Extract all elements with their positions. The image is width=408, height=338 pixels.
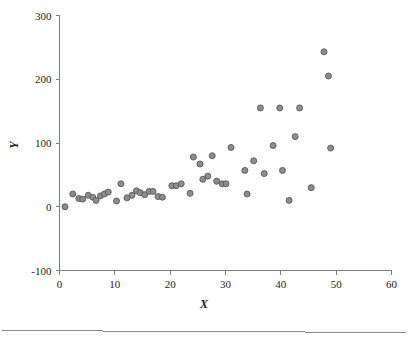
tick-marks [56,16,392,275]
data-point [286,197,292,203]
data-point [328,145,334,151]
data-point [223,181,229,187]
data-point [279,167,285,173]
data-point [321,49,327,55]
x-tick-label: 60 [386,278,398,290]
data-point [292,134,298,140]
data-point [113,198,119,204]
data-point [325,73,331,79]
data-point [205,173,211,179]
data-point [80,196,86,202]
data-point [105,189,111,195]
x-tick-labels: 0102030405060 [57,278,398,290]
footer-divider [2,331,406,333]
y-axis-title: Y [7,140,21,149]
x-tick-label: 30 [220,278,232,290]
data-point [242,167,248,173]
data-point [187,190,193,196]
y-tick-label: 100 [35,137,52,149]
data-point [118,181,124,187]
y-tick-label: 0 [46,201,52,213]
data-point [150,188,156,194]
data-point [159,194,165,200]
data-point [251,158,257,164]
data-point [277,105,283,111]
data-point [308,185,314,191]
data-point [214,178,220,184]
chart-canvas: -1000100200300 0102030405060 X Y [0,0,408,338]
x-axis-title: X [199,297,209,311]
data-point [62,204,68,210]
y-tick-label: -100 [31,265,52,277]
data-points [62,49,334,210]
data-point [257,105,263,111]
data-point [261,171,267,177]
data-point [190,154,196,160]
data-point [244,191,250,197]
data-point [197,161,203,167]
y-tick-label: 300 [35,10,52,22]
x-tick-label: 10 [109,278,121,290]
y-tick-label: 200 [35,73,52,85]
axes [60,16,392,271]
data-point [297,105,303,111]
x-tick-label: 40 [275,278,287,290]
scatter-plot-figure: -1000100200300 0102030405060 X Y [0,0,408,338]
data-point [178,181,184,187]
data-point [228,144,234,150]
data-point [70,191,76,197]
data-point [209,153,215,159]
data-point [270,143,276,149]
y-tick-labels: -1000100200300 [31,10,52,277]
x-tick-label: 0 [57,278,63,290]
x-tick-label: 50 [331,278,343,290]
x-tick-label: 20 [165,278,177,290]
